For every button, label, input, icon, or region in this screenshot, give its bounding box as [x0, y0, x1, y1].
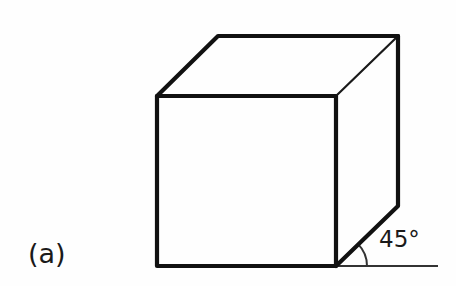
- panel-label: (a): [28, 240, 66, 267]
- front-face: [157, 96, 336, 266]
- angle-arc: [358, 244, 367, 266]
- figure-canvas: (a) 45°: [0, 0, 456, 286]
- angle-value-label: 45°: [379, 228, 420, 251]
- edge-receding-top-right: [336, 36, 398, 96]
- edge-top-face-back: [157, 36, 398, 96]
